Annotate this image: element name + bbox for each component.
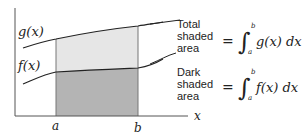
total-label-line-2: shaded <box>177 30 213 42</box>
dark-upper-limit: b <box>251 68 256 76</box>
x-axis-label: x <box>194 109 201 123</box>
g-label: g(x) <box>18 24 44 39</box>
light-shaded-region <box>56 26 138 72</box>
total-integrand: g(x) dx <box>256 34 302 49</box>
total-equals: = <box>222 33 234 49</box>
dark-leader-line <box>150 53 176 64</box>
f-label: f(x) <box>17 58 40 73</box>
total-label-line-3: area <box>177 42 200 54</box>
total-lower-limit: a <box>248 48 252 56</box>
dark-shaded-region <box>56 68 138 116</box>
a-label: a <box>52 119 59 133</box>
total-leader-line <box>150 20 180 24</box>
dark-label-line-1: Dark <box>177 66 201 78</box>
dark-area-annotation: Dark shaded area = ∫ b a f(x) dx <box>177 66 299 102</box>
area-diagram: g(x) f(x) a b x Total shaded area = ∫ b … <box>0 0 308 135</box>
dark-label-line-3: area <box>177 90 200 102</box>
total-upper-limit: b <box>251 22 256 30</box>
total-area-annotation: Total shaded area = ∫ b a g(x) dx <box>177 18 302 56</box>
dark-label-line-2: shaded <box>177 78 213 90</box>
b-label: b <box>134 121 142 135</box>
dark-integrand: f(x) dx <box>255 80 299 95</box>
total-label-line-1: Total <box>177 18 200 30</box>
dark-lower-limit: a <box>248 94 252 102</box>
dark-equals: = <box>222 79 234 95</box>
